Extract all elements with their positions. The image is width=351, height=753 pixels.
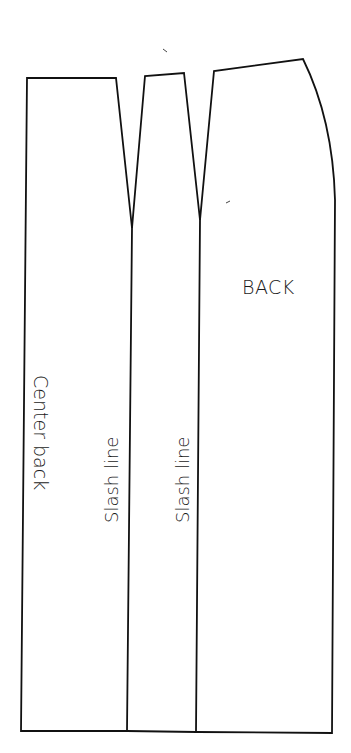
- side-panel: [196, 59, 335, 733]
- slash-line-label-2: Slash line: [172, 437, 193, 523]
- stray-mark: [226, 201, 230, 203]
- piece-name-label: BACK: [242, 276, 295, 298]
- stray-mark: [163, 49, 167, 52]
- middle-panel: [127, 73, 200, 732]
- slash-line-label-1: Slash line: [101, 437, 122, 523]
- center-back-label: Center back: [30, 375, 52, 490]
- pattern-drawing: [0, 0, 351, 753]
